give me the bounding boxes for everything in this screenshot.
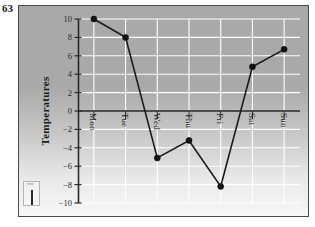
data-point: [218, 183, 224, 189]
figure-number: 63: [2, 2, 13, 14]
data-point: [154, 155, 160, 161]
y-tick-label: −2: [32, 124, 72, 134]
data-point: [281, 46, 287, 52]
x-tick-label-thu: Thu: [184, 113, 194, 128]
y-tick-label: −8: [32, 180, 72, 190]
data-point: [123, 34, 129, 40]
plot-area: 1086420−2−4−6−8−10 MonTueWedThuFriSatSun: [78, 19, 300, 203]
x-tick-label-fri: Fri: [215, 113, 225, 124]
data-point: [186, 137, 192, 143]
y-tick-label: 2: [32, 88, 72, 98]
x-tick-label-sat: Sat: [247, 113, 257, 125]
y-tick-label: 0: [32, 106, 72, 116]
x-tick-label-tue: Tue: [120, 113, 130, 127]
x-tick-label-sun: Sun: [279, 113, 289, 128]
y-tick-label: 4: [32, 69, 72, 79]
y-tick-label: −10: [32, 198, 72, 208]
y-tick-label: −4: [32, 143, 72, 153]
chart-canvas: [78, 19, 300, 203]
figure-root: 63 Temperatures Temp 1086420−2−4−6−8−10 …: [0, 0, 315, 227]
data-point: [91, 16, 97, 22]
y-tick-label: 6: [32, 51, 72, 61]
y-tick-label: −6: [32, 161, 72, 171]
x-tick-label-mon: Mon: [88, 113, 98, 131]
y-tick-label: 8: [32, 32, 72, 42]
data-point: [249, 64, 255, 70]
x-tick-label-wed: Wed: [152, 113, 162, 130]
y-tick-label: 10: [32, 14, 72, 24]
chart-frame: Temperatures Temp 1086420−2−4−6−8−10 Mon…: [18, 5, 309, 217]
